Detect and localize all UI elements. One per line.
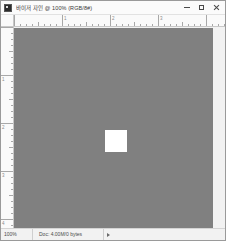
maximize-icon: [199, 5, 204, 10]
triangle-right-icon: [107, 233, 110, 237]
title-bar[interactable]: 바이저 자인 @ 100% (RGB/8#): [1, 1, 225, 15]
ruler-tick-label: 1: [2, 77, 5, 82]
close-icon: [213, 4, 220, 11]
image-editor-window: 바이저 자인 @ 100% (RGB/8#) 123 1234: [0, 0, 226, 241]
ruler-tick: [74, 24, 75, 26]
ruler-tick: [26, 24, 27, 26]
ruler-tick: [11, 87, 13, 88]
ruler-tick: [1, 27, 13, 28]
ruler-tick: [11, 129, 13, 130]
ruler-tick: [11, 213, 13, 214]
document-area: 123 1234: [1, 15, 225, 228]
ruler-tick: [164, 24, 165, 26]
ruler-tick: [11, 207, 13, 208]
image-document-icon: [4, 4, 12, 12]
ruler-tick: [158, 15, 159, 26]
ruler-tick: [80, 24, 81, 26]
ruler-tick: [1, 123, 13, 124]
ruler-tick: [1, 75, 13, 76]
doc-size-field: Doc: 4.00M/0 bytes: [33, 229, 104, 240]
ruler-tick: [11, 33, 13, 34]
maximize-button[interactable]: [194, 2, 209, 14]
ruler-tick: [1, 171, 13, 172]
zoom-level-field[interactable]: 100%: [1, 229, 33, 240]
ruler-tick: [110, 15, 111, 26]
ruler-tick: [50, 24, 51, 26]
ruler-tick: [128, 24, 129, 26]
ruler-tick-label: 4: [2, 221, 5, 226]
ruler-tick: [9, 51, 13, 52]
ruler-tick: [62, 15, 63, 26]
status-bar: 100% Doc: 4.00M/0 bytes: [1, 228, 225, 240]
ruler-tick: [9, 147, 13, 148]
ruler-tick-label: 1: [64, 16, 67, 21]
ruler-tick: [200, 24, 201, 26]
ruler-tick: [194, 24, 195, 26]
ruler-tick: [104, 24, 105, 26]
ruler-tick: [20, 24, 21, 26]
ruler-tick: [140, 24, 141, 26]
ruler-tick: [11, 135, 13, 136]
vertical-ruler[interactable]: 1234: [1, 27, 14, 228]
ruler-tick: [188, 24, 189, 26]
ruler-tick-label: 3: [2, 173, 5, 178]
ruler-tick: [11, 39, 13, 40]
ruler-tick: [182, 22, 183, 26]
ruler-tick: [11, 105, 13, 106]
ruler-tick-label: 3: [160, 16, 163, 21]
ruler-tick: [11, 189, 13, 190]
ruler-tick: [170, 24, 171, 26]
white-square[interactable]: [105, 130, 127, 152]
status-bar-spacer: [113, 229, 225, 240]
ruler-tick: [116, 24, 117, 26]
close-button[interactable]: [209, 2, 224, 14]
minimize-button[interactable]: [179, 2, 194, 14]
ruler-tick-label: 2: [112, 16, 115, 21]
ruler-tick: [11, 63, 13, 64]
status-expand-button[interactable]: [104, 229, 113, 240]
ruler-corner[interactable]: [1, 15, 14, 27]
ruler-tick: [122, 24, 123, 26]
ruler-tick: [1, 219, 13, 220]
ruler-tick: [11, 153, 13, 154]
horizontal-ruler[interactable]: 123: [14, 15, 225, 27]
ruler-tick: [152, 24, 153, 26]
ruler-tick-label: 2: [2, 125, 5, 130]
ruler-tick: [212, 24, 213, 26]
ruler-tick: [11, 45, 13, 46]
ruler-tick: [11, 225, 13, 226]
ruler-tick: [11, 69, 13, 70]
ruler-tick: [56, 24, 57, 26]
ruler-tick: [11, 57, 13, 58]
ruler-tick: [11, 159, 13, 160]
ruler-tick: [11, 177, 13, 178]
ruler-tick: [68, 24, 69, 26]
ruler-tick: [224, 24, 225, 26]
ruler-tick: [11, 81, 13, 82]
ruler-tick: [9, 99, 13, 100]
window-controls: [179, 1, 224, 15]
ruler-tick: [11, 93, 13, 94]
ruler-tick: [38, 22, 39, 26]
ruler-tick: [11, 141, 13, 142]
ruler-tick: [98, 24, 99, 26]
ruler-tick: [9, 195, 13, 196]
canvas-viewport[interactable]: [14, 27, 225, 228]
ruler-tick: [176, 24, 177, 26]
ruler-tick: [11, 117, 13, 118]
ruler-tick: [146, 24, 147, 26]
ruler-tick: [11, 201, 13, 202]
ruler-tick: [11, 183, 13, 184]
ruler-tick: [86, 22, 87, 26]
window-title: 바이저 자인 @ 100% (RGB/8#): [16, 4, 179, 12]
ruler-tick: [14, 15, 15, 26]
image-canvas[interactable]: [14, 28, 213, 228]
ruler-tick: [11, 111, 13, 112]
minimize-icon: [184, 7, 190, 8]
ruler-tick: [206, 15, 207, 26]
ruler-tick: [11, 165, 13, 166]
ruler-tick: [32, 24, 33, 26]
ruler-tick: [218, 24, 219, 26]
ruler-tick: [44, 24, 45, 26]
ruler-tick: [92, 24, 93, 26]
